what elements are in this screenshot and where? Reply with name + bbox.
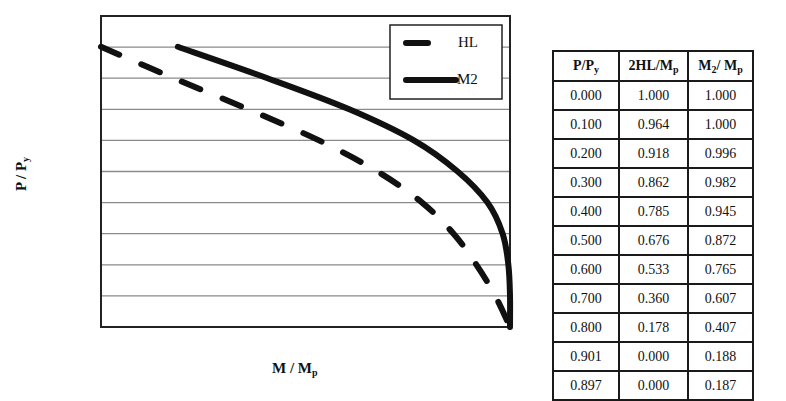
cell-p-py: 0.500 xyxy=(553,226,619,255)
cell-m2-mp: 0.872 xyxy=(688,226,753,255)
legend-box xyxy=(390,25,502,99)
cell-2hl-mp: 0.533 xyxy=(619,255,688,284)
header-p-py: P/Py xyxy=(553,51,619,81)
cell-m2-mp: 1.000 xyxy=(688,110,753,139)
cell-p-py: 0.100 xyxy=(553,110,619,139)
cell-m2-mp: 0.187 xyxy=(688,371,753,400)
header-text: M xyxy=(698,58,711,73)
table-row: 0.6000.5330.765 xyxy=(553,255,753,284)
cell-m2-mp: 0.188 xyxy=(688,342,753,371)
cell-p-py: 0.901 xyxy=(553,342,619,371)
cell-2hl-mp: 0.360 xyxy=(619,284,688,313)
cell-2hl-mp: 1.000 xyxy=(619,81,688,110)
cell-p-py: 0.700 xyxy=(553,284,619,313)
header-2hl-mp: 2HL/Mp xyxy=(619,51,688,81)
cell-p-py: 0.000 xyxy=(553,81,619,110)
cell-p-py: 0.400 xyxy=(553,197,619,226)
cell-m2-mp: 0.982 xyxy=(688,168,753,197)
y-axis-label-sub: y xyxy=(20,157,31,162)
cell-m2-mp: 0.607 xyxy=(688,284,753,313)
data-table: P/Py 2HL/Mp M2/ Mp 0.0001.0001.0000.1000… xyxy=(552,50,754,401)
header-sub: p xyxy=(673,64,679,75)
cell-p-py: 0.800 xyxy=(553,313,619,342)
cell-2hl-mp: 0.918 xyxy=(619,139,688,168)
x-axis-label: M / Mp xyxy=(272,360,318,378)
cell-2hl-mp: 0.676 xyxy=(619,226,688,255)
table-body: 0.0001.0001.0000.1000.9641.0000.2000.918… xyxy=(553,81,753,400)
legend xyxy=(390,25,502,99)
cell-m2-mp: 0.996 xyxy=(688,139,753,168)
x-axis-label-sub: p xyxy=(312,367,318,378)
header-sub: y xyxy=(594,64,599,75)
table-row: 0.2000.9180.996 xyxy=(553,139,753,168)
table-row: 0.7000.3600.607 xyxy=(553,284,753,313)
y-axis-label-main: P / P xyxy=(13,162,29,191)
cell-2hl-mp: 0.000 xyxy=(619,371,688,400)
table-row: 0.0001.0001.000 xyxy=(553,81,753,110)
header-m2-mp: M2/ Mp xyxy=(688,51,753,81)
cell-m2-mp: 0.765 xyxy=(688,255,753,284)
cell-p-py: 0.200 xyxy=(553,139,619,168)
cell-2hl-mp: 0.178 xyxy=(619,313,688,342)
table-row: 0.5000.6760.872 xyxy=(553,226,753,255)
table-row: 0.9010.0000.188 xyxy=(553,342,753,371)
header-text: P/P xyxy=(573,58,594,73)
table-row: 0.3000.8620.982 xyxy=(553,168,753,197)
table-row: 0.4000.7850.945 xyxy=(553,197,753,226)
cell-p-py: 0.897 xyxy=(553,371,619,400)
cell-m2-mp: 0.407 xyxy=(688,313,753,342)
cell-2hl-mp: 0.785 xyxy=(619,197,688,226)
cell-m2-mp: 1.000 xyxy=(688,81,753,110)
y-axis-label: P / Py xyxy=(13,157,31,191)
header-text: / M xyxy=(717,58,738,73)
x-axis-label-main: M / M xyxy=(272,360,312,376)
header-sub: p xyxy=(737,64,743,75)
legend-label-hl: HL xyxy=(458,34,478,51)
table-header-row: P/Py 2HL/Mp M2/ Mp xyxy=(553,51,753,81)
cell-p-py: 0.300 xyxy=(553,168,619,197)
cell-2hl-mp: 0.862 xyxy=(619,168,688,197)
cell-2hl-mp: 0.964 xyxy=(619,110,688,139)
table-row: 0.8000.1780.407 xyxy=(553,313,753,342)
legend-label-m2: M2 xyxy=(457,71,478,88)
cell-m2-mp: 0.945 xyxy=(688,197,753,226)
table-row: 0.1000.9641.000 xyxy=(553,110,753,139)
cell-p-py: 0.600 xyxy=(553,255,619,284)
header-text: 2HL/M xyxy=(629,58,673,73)
table-row: 0.8970.0000.187 xyxy=(553,371,753,400)
cell-2hl-mp: 0.000 xyxy=(619,342,688,371)
